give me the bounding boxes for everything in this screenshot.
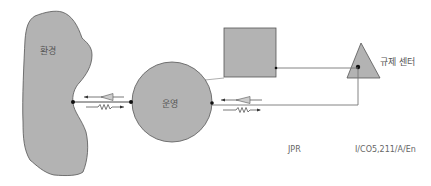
control-center-triangle: [347, 43, 380, 78]
operation-to-box-connector: [205, 78, 224, 80]
control-center-label: 규제 센터: [380, 55, 415, 68]
operation-right-connection-dot: [210, 101, 214, 105]
diagram-canvas: [0, 0, 431, 186]
signal-arrow-right-icon-2: [223, 108, 261, 113]
feedback-arrow-left-icon-2: [221, 97, 262, 104]
footer-code-left: JPR: [288, 145, 301, 154]
feedback-arrow-left-icon: [84, 94, 124, 101]
footer-code-right: I/CO5,211/A/En: [355, 145, 416, 154]
control-center-connection-dot: [356, 65, 360, 69]
unlabeled-square: [224, 28, 276, 77]
operation-left-connection-dot: [129, 100, 133, 104]
operation-label: 운영: [162, 97, 178, 110]
signal-arrow-right-icon: [86, 105, 124, 110]
environment-connection-dot: [71, 100, 75, 104]
environment-blob: [23, 11, 92, 175]
environment-label: 환경: [40, 44, 56, 57]
box-connection-dot: [275, 67, 278, 70]
